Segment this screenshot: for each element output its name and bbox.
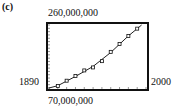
data-point (74, 75, 77, 78)
data-point (127, 34, 130, 37)
panel-label: (c) (2, 2, 13, 12)
data-point (92, 66, 95, 69)
plot-area (46, 22, 149, 91)
data-point (56, 85, 59, 88)
plot-frame (47, 23, 148, 90)
y-max-label: 260,000,000 (48, 8, 98, 18)
x-max-label: 2000 (151, 77, 171, 87)
data-point (136, 27, 139, 30)
y-min-label: 70,000,000 (48, 96, 93, 106)
data-point (109, 50, 112, 53)
data-point (83, 69, 86, 72)
data-point (65, 79, 68, 82)
data-point (100, 60, 103, 63)
x-min-label: 1890 (19, 77, 39, 87)
data-point (118, 42, 121, 45)
